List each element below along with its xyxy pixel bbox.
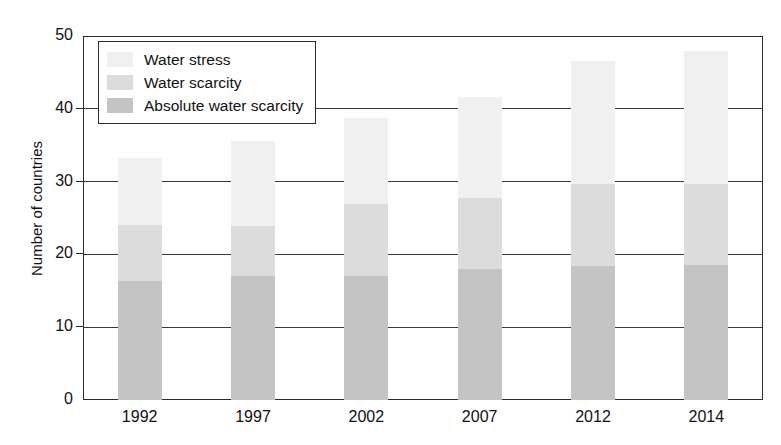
legend-swatch-water-stress [107,52,133,67]
x-axis-tick-label: 1992 [95,408,185,426]
legend-label-water-scarcity: Water scarcity [144,74,242,92]
y-axis-tick-label: 30 [29,172,73,190]
legend-swatch-absolute-water-scarcity [107,98,133,113]
y-axis-tick-label: 0 [29,390,73,408]
x-axis-tick-label: 2007 [435,408,525,426]
y-axis-tick-label: 10 [29,317,73,335]
legend-label-water-stress: Water stress [144,51,230,69]
legend-swatch-water-scarcity [107,75,133,90]
y-axis-tick-mark [76,253,83,254]
gridline [84,181,762,182]
chart-legend: Water stress Water scarcity Absolute wat… [98,41,316,124]
gridline [84,327,762,328]
y-axis-tick-mark [76,181,83,182]
y-axis-tick-label: 50 [29,26,73,44]
x-axis-tick-label: 2012 [548,408,638,426]
bar-chart: Number of countries 01020304050 19921997… [0,0,781,445]
legend-label-absolute-water-scarcity: Absolute water scarcity [144,97,303,115]
x-axis-tick-label: 2002 [321,408,411,426]
gridline [84,254,762,255]
y-axis-title: Number of countries [28,99,45,319]
y-axis-tick-label: 40 [29,99,73,117]
legend-item: Absolute water scarcity [107,94,303,117]
x-axis-tick-label: 2014 [661,408,751,426]
y-axis-tick-mark [76,108,83,109]
legend-item: Water scarcity [107,71,303,94]
x-axis-tick-label: 1997 [208,408,298,426]
legend-item: Water stress [107,48,303,71]
y-axis-tick-label: 20 [29,244,73,262]
y-axis-tick-mark [76,326,83,327]
